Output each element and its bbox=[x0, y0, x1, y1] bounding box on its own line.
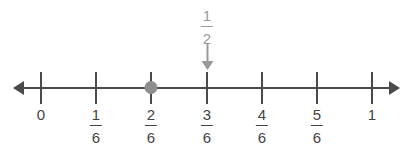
fraction-denominator: 6 bbox=[201, 128, 213, 145]
fraction-label: 16 bbox=[90, 107, 102, 145]
whole-number-label: 1 bbox=[368, 107, 376, 122]
tick-label: 46 bbox=[256, 107, 268, 145]
fraction-bar bbox=[201, 125, 213, 126]
fraction-one-half: 1 2 bbox=[201, 8, 213, 46]
fraction-bar bbox=[256, 125, 268, 126]
fraction-numerator: 1 bbox=[90, 107, 102, 124]
plotted-point-marker[interactable] bbox=[145, 81, 158, 94]
fraction-denominator: 6 bbox=[311, 128, 323, 145]
fraction-denominator: 6 bbox=[90, 128, 102, 145]
tick-label: 26 bbox=[145, 107, 157, 145]
tick-label: 1 bbox=[368, 107, 376, 122]
tick-mark bbox=[261, 72, 263, 104]
tick-label: 36 bbox=[201, 107, 213, 145]
fraction-label: 56 bbox=[311, 107, 323, 145]
fraction-numerator: 3 bbox=[201, 107, 213, 124]
fraction-bar bbox=[201, 26, 213, 27]
tick-label: 16 bbox=[90, 107, 102, 145]
fraction-label: 26 bbox=[145, 107, 157, 145]
right-arrow-icon bbox=[389, 81, 400, 95]
whole-number-label: 0 bbox=[37, 107, 45, 122]
tick-mark bbox=[316, 72, 318, 104]
fraction-denominator: 6 bbox=[256, 128, 268, 145]
fraction-bar bbox=[145, 125, 157, 126]
tick-mark bbox=[40, 72, 42, 104]
arrow-shaft bbox=[206, 44, 208, 61]
fraction-numerator: 4 bbox=[256, 107, 268, 124]
tick-mark bbox=[95, 72, 97, 104]
tick-mark bbox=[371, 72, 373, 104]
fraction-numerator: 5 bbox=[311, 107, 323, 124]
fraction-bar bbox=[311, 125, 323, 126]
number-line-figure: 016263646561 1 2 bbox=[0, 0, 413, 159]
left-arrow-icon bbox=[13, 81, 24, 95]
fraction-label: 46 bbox=[256, 107, 268, 145]
fraction-numerator: 1 bbox=[201, 8, 213, 25]
fraction-denominator: 6 bbox=[145, 128, 157, 145]
down-arrow-icon bbox=[201, 44, 214, 70]
arrow-head bbox=[201, 61, 213, 70]
tick-label: 56 bbox=[311, 107, 323, 145]
half-callout-label: 1 2 bbox=[201, 8, 213, 46]
tick-label: 0 bbox=[37, 107, 45, 122]
tick-mark bbox=[206, 72, 208, 104]
fraction-label: 36 bbox=[201, 107, 213, 145]
fraction-numerator: 2 bbox=[145, 107, 157, 124]
fraction-bar bbox=[90, 125, 102, 126]
